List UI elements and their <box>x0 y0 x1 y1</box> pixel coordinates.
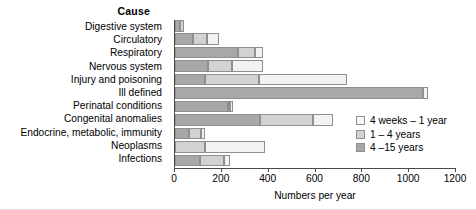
category-label: Respiratory <box>0 46 168 59</box>
bar-segment <box>259 74 347 86</box>
x-tick <box>174 168 175 172</box>
bar-segment <box>313 114 333 126</box>
bar-segment <box>205 74 259 86</box>
bar-segment <box>423 87 428 99</box>
legend-item: 1 – 4 years <box>356 128 447 141</box>
category-label: Nervous system <box>0 60 168 73</box>
bar-segment <box>189 128 201 140</box>
category-label: Congenital anomalies <box>0 112 168 125</box>
x-tick <box>268 168 269 172</box>
legend-label: 4 weeks – 1 year <box>370 115 447 126</box>
legend-item: 4 –15 years <box>356 142 447 155</box>
bottom-divider <box>0 209 476 210</box>
bar-chart: Cause Digestive systemCirculatoryRespira… <box>0 0 476 210</box>
bar-segment <box>224 155 230 167</box>
category-label: Neoplasms <box>0 139 168 152</box>
legend-swatch-icon <box>356 143 365 152</box>
bar-segment <box>175 60 208 72</box>
bar-segment <box>193 33 207 45</box>
x-tick-label: 400 <box>248 173 288 184</box>
bar-segment <box>175 114 260 126</box>
bar-segment <box>205 141 265 153</box>
chart-title: Cause <box>0 5 150 17</box>
bar-segment <box>208 60 233 72</box>
bar-segment <box>201 128 205 140</box>
x-tick-label: 1000 <box>388 173 428 184</box>
bar-segment <box>207 33 220 45</box>
bar-segment <box>180 20 184 32</box>
legend-swatch-icon <box>356 116 365 125</box>
category-label: Ill defined <box>0 86 168 99</box>
x-tick <box>408 168 409 172</box>
bar-segment <box>175 74 205 86</box>
chart-legend: 4 weeks – 1 year1 – 4 years4 –15 years <box>356 114 447 155</box>
bar-segment <box>175 101 228 113</box>
x-tick <box>221 168 222 172</box>
bar-segment <box>200 155 225 167</box>
bar-segment <box>175 87 423 99</box>
category-label: Circulatory <box>0 33 168 46</box>
category-label-list: Digestive systemCirculatoryRespiratoryNe… <box>0 20 168 165</box>
category-label: Endocrine, metabolic, immunity <box>0 126 168 139</box>
bar-segment <box>175 47 238 59</box>
bar-segment <box>232 60 262 72</box>
bar-segment <box>260 114 313 126</box>
x-tick <box>361 168 362 172</box>
bar-segment <box>255 47 263 59</box>
x-tick <box>455 168 456 172</box>
legend-swatch-icon <box>356 130 365 139</box>
x-tick <box>315 168 316 172</box>
category-label: Digestive system <box>0 20 168 33</box>
bar-segment <box>175 33 193 45</box>
legend-label: 4 –15 years <box>370 142 423 153</box>
x-tick-label: 1200 <box>435 173 475 184</box>
bar-segment <box>175 155 200 167</box>
bar-segment <box>238 47 255 59</box>
bar-segment <box>230 101 233 113</box>
x-axis-title: Numbers per year <box>174 190 456 201</box>
bar-segment <box>175 128 189 140</box>
x-tick-label: 600 <box>295 173 335 184</box>
x-tick-label: 200 <box>201 173 241 184</box>
x-tick-label: 0 <box>154 173 194 184</box>
x-tick-label: 800 <box>341 173 381 184</box>
category-label: Infections <box>0 152 168 165</box>
bar-segment <box>175 141 205 153</box>
legend-item: 4 weeks – 1 year <box>356 114 447 127</box>
category-label: Injury and poisoning <box>0 73 168 86</box>
category-label: Perinatal conditions <box>0 99 168 112</box>
legend-label: 1 – 4 years <box>370 129 420 140</box>
